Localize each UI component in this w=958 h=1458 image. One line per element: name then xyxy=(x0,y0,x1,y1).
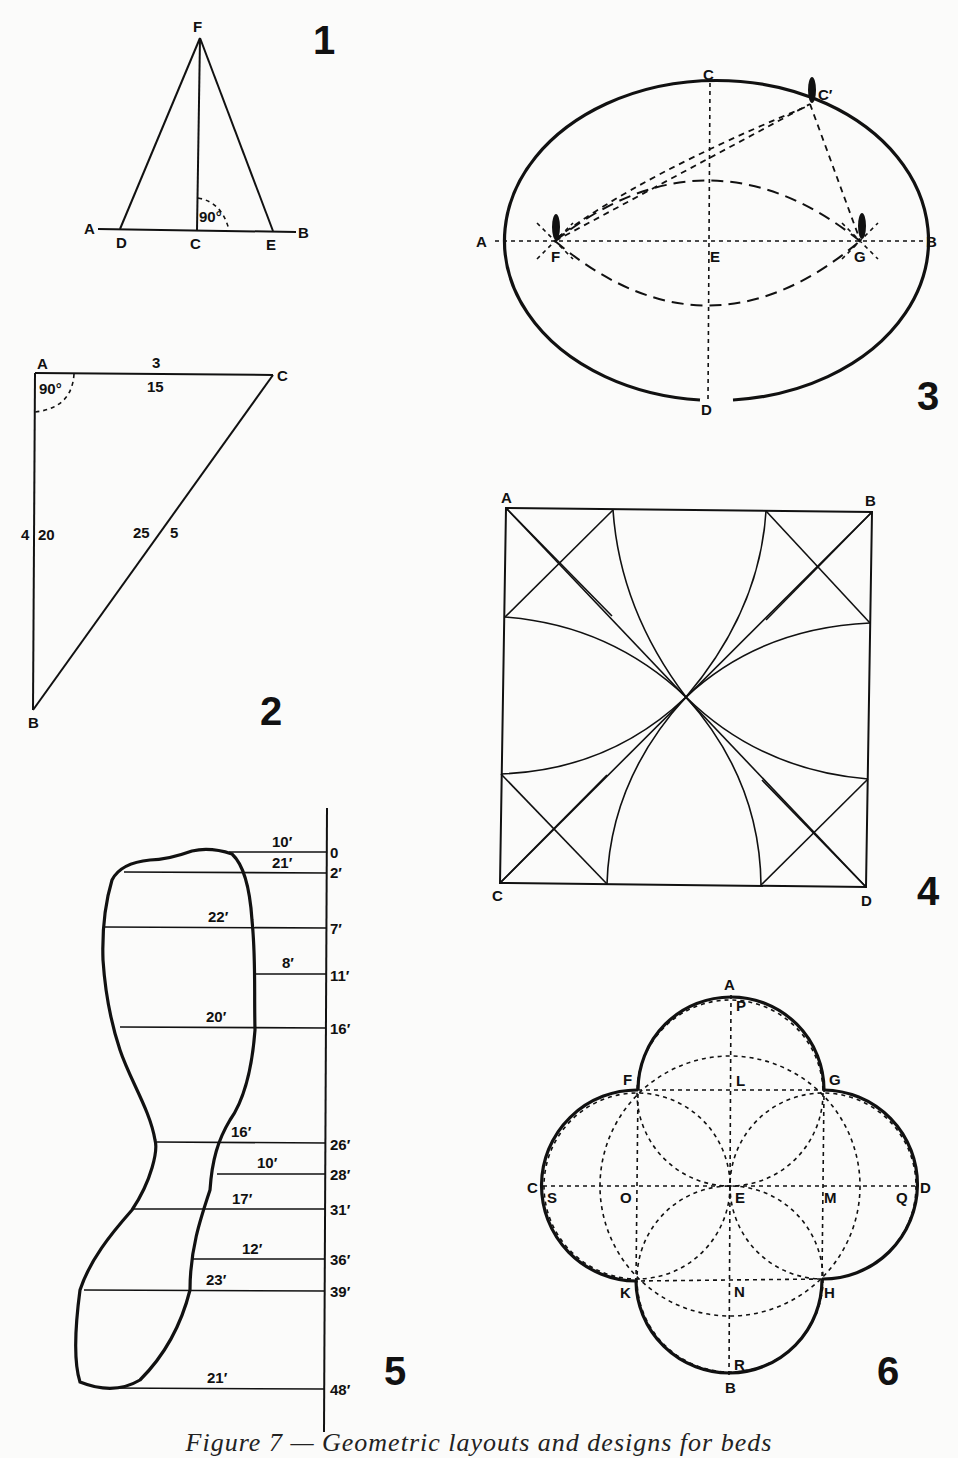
fig6-label-D: D xyxy=(920,1179,931,1196)
fig5-station-4: 16′ xyxy=(330,1020,351,1037)
fig3-label-C-prime: C′ xyxy=(818,86,833,103)
fig4-label-B: B xyxy=(865,492,876,509)
figure-4-square-pattern: A B C D 4 xyxy=(492,489,940,913)
fig6-label-M: M xyxy=(824,1189,837,1206)
fig1-label-E: E xyxy=(266,236,276,253)
fig3-label-D: D xyxy=(701,401,712,418)
fig5-width-5: 16′ xyxy=(231,1123,252,1140)
figure-6-quatrefoil: A P F L G C S O E M Q D K N H R B 6 xyxy=(527,976,931,1396)
fig2-label-B: B xyxy=(28,714,39,731)
fig5-width-1: 21′ xyxy=(272,854,293,871)
fig5-station-6: 28′ xyxy=(330,1166,351,1183)
figure-number-6: 6 xyxy=(877,1349,899,1393)
fig6-label-F: F xyxy=(623,1071,632,1088)
fig5-station-1: 2′ xyxy=(330,864,342,881)
fig5-width-8: 12′ xyxy=(242,1240,263,1257)
fig4-label-C: C xyxy=(492,887,503,904)
fig5-width-0: 10′ xyxy=(272,833,293,850)
fig5-station-9: 39′ xyxy=(330,1283,351,1300)
figure-number-2: 2 xyxy=(260,689,282,733)
fig6-label-R: R xyxy=(734,1356,745,1373)
fig5-station-2: 7′ xyxy=(330,920,342,937)
fig3-label-B: B xyxy=(926,233,937,250)
fig6-label-P: P xyxy=(736,997,746,1014)
figure-3-ellipse: C C′ A B F E G D 3 xyxy=(476,66,939,418)
fig6-label-A: A xyxy=(724,976,735,993)
fig5-width-3: 8′ xyxy=(282,954,294,971)
fig2-side-bc-outer: 5 xyxy=(170,524,178,541)
figure-2-right-triangle: A C B 90° 3 15 4 20 25 5 2 xyxy=(21,354,288,733)
fig6-label-C: C xyxy=(527,1179,538,1196)
fig5-station-10: 48′ xyxy=(330,1381,351,1398)
fig5-width-10: 21′ xyxy=(207,1369,228,1386)
fig5-width-7: 17′ xyxy=(232,1190,253,1207)
figure-5-offset-survey: 10′ 21′ 22′ 8′ 20′ 16′ 10′ 17′ 12′ 23′ 2… xyxy=(76,808,406,1432)
fig2-label-A: A xyxy=(37,355,48,372)
fig3-label-F: F xyxy=(551,248,560,265)
fig5-station-7: 31′ xyxy=(330,1201,351,1218)
fig6-label-L: L xyxy=(736,1072,745,1089)
fig3-label-G: G xyxy=(854,248,866,265)
stake-icon xyxy=(808,77,816,103)
fig2-label-C: C xyxy=(277,367,288,384)
stake-icon xyxy=(552,214,560,240)
fig5-width-6: 10′ xyxy=(257,1154,278,1171)
fig2-side-ac-outer: 3 xyxy=(152,354,160,371)
fig1-label-D: D xyxy=(116,234,127,251)
stake-icon xyxy=(858,213,866,239)
fig1-label-C: C xyxy=(190,235,201,252)
fig5-station-3: 11′ xyxy=(330,967,350,984)
fig5-station-0: 0 xyxy=(330,844,338,861)
figure-number-3: 3 xyxy=(917,374,939,418)
fig3-label-A: A xyxy=(476,233,487,250)
figure-1-perpendicular: F A B D C E 90° 1 xyxy=(84,18,335,253)
fig2-angle-label: 90° xyxy=(39,380,62,397)
fig4-label-D: D xyxy=(861,892,872,909)
fig2-side-ab-inner: 20 xyxy=(38,526,55,543)
fig6-label-G: G xyxy=(829,1071,841,1088)
fig2-side-ab-outer: 4 xyxy=(21,526,30,543)
fig6-label-H: H xyxy=(824,1284,835,1301)
fig6-label-B: B xyxy=(725,1379,736,1396)
fig5-station-8: 36′ xyxy=(330,1251,351,1268)
fig1-label-A: A xyxy=(84,220,95,237)
fig5-width-2: 22′ xyxy=(208,908,229,925)
fig3-label-E: E xyxy=(710,248,720,265)
fig6-label-O: O xyxy=(620,1189,632,1206)
figure-caption: Figure 7 — Geometric layouts and designs… xyxy=(0,1428,958,1458)
figure-number-4: 4 xyxy=(917,869,940,913)
fig4-label-A: A xyxy=(501,489,512,506)
fig2-side-ac-inner: 15 xyxy=(147,378,164,395)
fig3-label-C: C xyxy=(703,66,714,83)
figure-number-1: 1 xyxy=(313,18,335,62)
fig1-angle-label: 90° xyxy=(199,208,222,225)
fig5-station-5: 26′ xyxy=(330,1136,351,1153)
fig1-label-B: B xyxy=(298,224,309,241)
fig6-label-E: E xyxy=(735,1189,745,1206)
fig6-label-S: S xyxy=(547,1189,557,1206)
fig6-label-K: K xyxy=(620,1284,631,1301)
fig6-label-Q: Q xyxy=(896,1189,908,1206)
fig2-side-bc-inner: 25 xyxy=(133,524,150,541)
fig5-width-9: 23′ xyxy=(206,1271,227,1288)
figure-number-5: 5 xyxy=(384,1349,406,1393)
fig1-label-F: F xyxy=(193,18,202,35)
fig5-width-4: 20′ xyxy=(206,1008,227,1025)
fig6-label-N: N xyxy=(734,1283,745,1300)
